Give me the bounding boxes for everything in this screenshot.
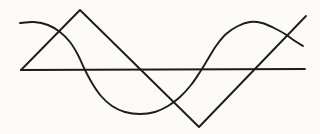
figure-background bbox=[0, 0, 320, 134]
horizontal-axis-line bbox=[21, 69, 305, 70]
waveform-figure bbox=[0, 0, 320, 134]
figure-canvas bbox=[0, 0, 320, 134]
